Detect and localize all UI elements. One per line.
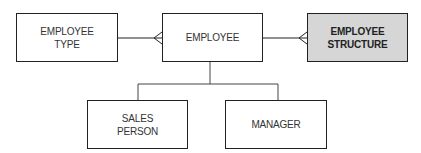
- entity-label: SALES PERSON: [117, 112, 158, 138]
- entity-manager: MANAGER: [225, 100, 327, 149]
- entity-label: EMPLOYEE TYPE: [40, 25, 93, 51]
- entity-label: EMPLOYEE: [186, 31, 239, 44]
- entity-label: MANAGER: [251, 118, 300, 131]
- entity-employee-structure: EMPLOYEE STRUCTURE: [307, 13, 408, 62]
- entity-employee: EMPLOYEE: [162, 13, 263, 62]
- entity-sales-person: SALES PERSON: [87, 100, 188, 149]
- entity-employee-type: EMPLOYEE TYPE: [16, 13, 118, 62]
- entity-label: EMPLOYEE STRUCTURE: [328, 25, 388, 51]
